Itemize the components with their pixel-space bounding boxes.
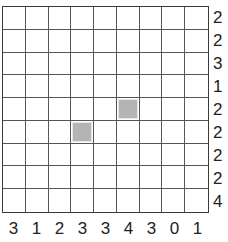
grid-cell[interactable] xyxy=(26,7,49,30)
grid-cell[interactable] xyxy=(26,189,49,212)
grid-cell-shaded[interactable] xyxy=(117,98,140,121)
grid-cell[interactable] xyxy=(94,7,117,30)
grid-cell[interactable] xyxy=(26,121,49,144)
row-clue: 2 xyxy=(212,29,228,52)
grid-cell[interactable] xyxy=(49,121,72,144)
grid-cell[interactable] xyxy=(71,30,94,53)
row-clue: 4 xyxy=(212,190,228,213)
grid-cell[interactable] xyxy=(71,144,94,167)
grid-cell[interactable] xyxy=(140,30,163,53)
grid-cell[interactable] xyxy=(26,98,49,121)
grid-cell[interactable] xyxy=(71,53,94,76)
grid-cell[interactable] xyxy=(162,166,185,189)
grid-cell[interactable] xyxy=(94,121,117,144)
grid-cell[interactable] xyxy=(3,98,26,121)
column-clue: 1 xyxy=(186,216,209,240)
grid-cell[interactable] xyxy=(49,98,72,121)
grid-cell[interactable] xyxy=(94,166,117,189)
grid-cell[interactable] xyxy=(3,75,26,98)
column-clue: 3 xyxy=(71,216,94,240)
grid-cell[interactable] xyxy=(140,166,163,189)
grid-cell[interactable] xyxy=(117,144,140,167)
grid-cell[interactable] xyxy=(185,144,208,167)
grid-cell-shaded[interactable] xyxy=(71,121,94,144)
grid-cell[interactable] xyxy=(3,30,26,53)
grid-cell[interactable] xyxy=(49,30,72,53)
grid-cell[interactable] xyxy=(117,166,140,189)
column-clue: 4 xyxy=(117,216,140,240)
grid-cell[interactable] xyxy=(49,75,72,98)
grid-cell[interactable] xyxy=(49,53,72,76)
grid-cell[interactable] xyxy=(3,166,26,189)
grid-cell[interactable] xyxy=(3,189,26,212)
grid-cell[interactable] xyxy=(3,7,26,30)
grid-cell[interactable] xyxy=(162,75,185,98)
grid-cell[interactable] xyxy=(94,75,117,98)
column-clue: 3 xyxy=(94,216,117,240)
row-clue: 2 xyxy=(212,167,228,190)
grid-cell[interactable] xyxy=(3,121,26,144)
grid-cell[interactable] xyxy=(49,144,72,167)
grid-cell[interactable] xyxy=(162,189,185,212)
grid-cell[interactable] xyxy=(185,166,208,189)
grid-cell[interactable] xyxy=(94,144,117,167)
grid-cell[interactable] xyxy=(71,189,94,212)
grid-cell[interactable] xyxy=(117,7,140,30)
grid-cell[interactable] xyxy=(94,189,117,212)
grid-cell[interactable] xyxy=(140,144,163,167)
grid-cell[interactable] xyxy=(94,98,117,121)
grid-cell[interactable] xyxy=(117,53,140,76)
grid-cell[interactable] xyxy=(117,30,140,53)
grid-cell[interactable] xyxy=(49,166,72,189)
grid-cell[interactable] xyxy=(26,75,49,98)
column-clue: 1 xyxy=(25,216,48,240)
grid-cell[interactable] xyxy=(140,121,163,144)
grid-cell[interactable] xyxy=(117,121,140,144)
grid-cell[interactable] xyxy=(71,166,94,189)
grid-cell[interactable] xyxy=(162,98,185,121)
column-clue: 3 xyxy=(140,216,163,240)
grid-cell[interactable] xyxy=(140,75,163,98)
grid-cell[interactable] xyxy=(185,30,208,53)
grid-cell[interactable] xyxy=(3,53,26,76)
row-clue: 1 xyxy=(212,75,228,98)
grid-cell[interactable] xyxy=(71,75,94,98)
grid-cell[interactable] xyxy=(49,189,72,212)
grid-cell[interactable] xyxy=(162,7,185,30)
grid-cell[interactable] xyxy=(162,30,185,53)
grid-cell[interactable] xyxy=(26,53,49,76)
grid-cell[interactable] xyxy=(117,189,140,212)
column-clue: 2 xyxy=(48,216,71,240)
grid-cell[interactable] xyxy=(185,7,208,30)
grid-cell[interactable] xyxy=(162,53,185,76)
row-clue: 2 xyxy=(212,98,228,121)
grid-cell[interactable] xyxy=(94,53,117,76)
column-clue: 0 xyxy=(163,216,186,240)
grid-cell[interactable] xyxy=(71,7,94,30)
grid-cell[interactable] xyxy=(94,30,117,53)
grid-cell[interactable] xyxy=(26,30,49,53)
row-clues: 223122224 xyxy=(212,6,228,213)
grid-cell[interactable] xyxy=(26,144,49,167)
row-clue: 2 xyxy=(212,6,228,29)
grid-cell[interactable] xyxy=(26,166,49,189)
grid-cell[interactable] xyxy=(185,189,208,212)
grid-cell[interactable] xyxy=(162,121,185,144)
row-clue: 2 xyxy=(212,121,228,144)
row-clue: 2 xyxy=(212,144,228,167)
grid-cell[interactable] xyxy=(162,144,185,167)
grid-cell[interactable] xyxy=(71,98,94,121)
grid-cell[interactable] xyxy=(140,98,163,121)
grid-cell[interactable] xyxy=(185,53,208,76)
grid-cell[interactable] xyxy=(140,53,163,76)
grid-cell[interactable] xyxy=(117,75,140,98)
puzzle-grid xyxy=(2,6,209,213)
grid-cell[interactable] xyxy=(49,7,72,30)
grid-cell[interactable] xyxy=(140,7,163,30)
grid-cell[interactable] xyxy=(185,75,208,98)
grid-cell[interactable] xyxy=(185,121,208,144)
grid-cell[interactable] xyxy=(140,189,163,212)
grid-cell[interactable] xyxy=(3,144,26,167)
column-clues: 312334301 xyxy=(2,216,209,240)
grid-cell[interactable] xyxy=(185,98,208,121)
